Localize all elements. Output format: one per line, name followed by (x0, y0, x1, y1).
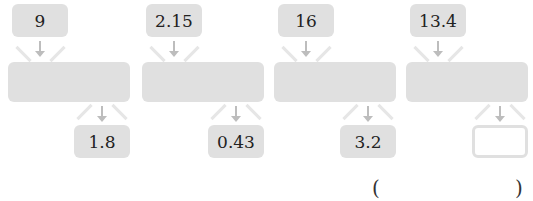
ray-decoration (377, 104, 393, 120)
input-box: 16 (278, 4, 334, 37)
ray-decoration (111, 104, 127, 120)
ray-decoration (49, 46, 65, 62)
answer-close-paren: ) (515, 176, 523, 200)
ray-decoration (315, 46, 331, 62)
answer-open-paren: ( (372, 176, 380, 200)
machine-unit-3: 16 3.2 (274, 0, 407, 170)
output-box: 1.8 (74, 125, 130, 158)
down-arrow-icon (173, 41, 175, 52)
ray-decoration (245, 104, 261, 120)
ray-decoration (149, 46, 165, 62)
machine-box (8, 62, 130, 102)
input-box: 2.15 (146, 4, 202, 37)
input-box: 13.4 (410, 4, 466, 37)
ray-decoration (474, 104, 490, 120)
ray-decoration (281, 46, 297, 62)
down-arrow-icon (39, 41, 41, 52)
machine-unit-1: 9 1.8 (8, 0, 141, 170)
ray-decoration (509, 104, 525, 120)
down-arrow-icon (305, 41, 307, 52)
down-arrow-icon (499, 106, 501, 117)
input-box: 9 (12, 4, 68, 37)
ray-decoration (15, 46, 31, 62)
ray-decoration (76, 104, 92, 120)
down-arrow-icon (101, 106, 103, 117)
down-arrow-icon (367, 106, 369, 117)
down-arrow-icon (235, 106, 237, 117)
answer-blank-box[interactable] (472, 125, 528, 158)
ray-decoration (210, 104, 226, 120)
answer-field[interactable] (385, 176, 510, 198)
machine-box (274, 62, 396, 102)
machine-box (142, 62, 264, 102)
ray-decoration (183, 46, 199, 62)
down-arrow-icon (437, 41, 439, 52)
output-box: 0.43 (208, 125, 264, 158)
ray-decoration (413, 46, 429, 62)
machine-unit-4: 13.4 (406, 0, 533, 170)
output-box: 3.2 (340, 125, 396, 158)
machine-unit-2: 2.15 0.43 (142, 0, 275, 170)
machine-box (406, 62, 528, 102)
ray-decoration (342, 104, 358, 120)
ray-decoration (447, 46, 463, 62)
